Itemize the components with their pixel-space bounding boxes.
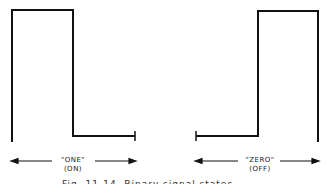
zero-waveform	[196, 11, 318, 142]
one-waveform	[12, 10, 135, 142]
off-sublabel: (OFF)	[240, 165, 280, 173]
waveform-diagram	[0, 0, 330, 184]
figure-caption: Fig. 11-14. Binary signal states	[62, 179, 233, 184]
zero-label: "ZERO"	[240, 156, 280, 164]
one-label: "ONE"	[56, 156, 90, 164]
on-sublabel: (ON)	[56, 165, 90, 173]
